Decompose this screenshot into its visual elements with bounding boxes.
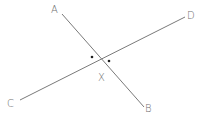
label-x-intersection: X <box>98 72 105 83</box>
line-cd <box>20 17 185 100</box>
label-c: C <box>7 98 14 109</box>
label-b: B <box>145 103 152 114</box>
diagram-canvas: A B C D X <box>0 0 204 116</box>
label-a: A <box>51 4 58 15</box>
angle-marker-dot-left <box>91 56 94 59</box>
label-d: D <box>187 10 195 21</box>
angle-marker-dot-right <box>108 60 111 63</box>
line-ab <box>62 14 144 107</box>
